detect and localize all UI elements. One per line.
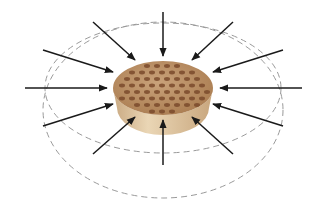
arrow-left-upper-icon [43, 50, 113, 72]
arrow-bottom-left-icon [93, 117, 135, 154]
compression-diagram [0, 0, 328, 215]
arrow-left-lower-icon [43, 104, 113, 126]
arrow-bottom-right-icon [192, 117, 233, 154]
arrow-right-upper-icon [213, 50, 283, 72]
arrow-top-right-icon [192, 22, 233, 60]
arrow-top-left-icon [93, 22, 135, 60]
arrow-right-lower-icon [213, 104, 283, 126]
diagram-canvas [0, 0, 328, 215]
disc-top [113, 61, 213, 115]
